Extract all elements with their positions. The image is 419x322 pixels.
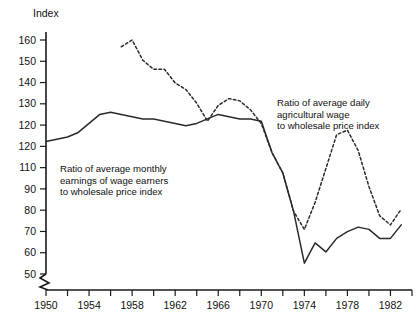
y-axis-title: Index [33, 7, 59, 19]
y-axis-tick-label: 80 [24, 204, 36, 216]
x-axis-line [40, 274, 412, 290]
x-axis-tick-label: 1982 [379, 299, 403, 311]
y-axis-tick-label: 120 [18, 140, 36, 152]
y-axis-tick-label: 130 [18, 97, 36, 109]
x-axis-tick-label: 1958 [120, 299, 144, 311]
x-axis-tick-label: 1970 [250, 299, 274, 311]
chart-container: Index 1601501401301201201109080706050 19… [0, 0, 419, 322]
x-axis-tick-label: 1978 [336, 299, 360, 311]
y-axis-tick-label: 60 [24, 246, 36, 258]
y-axis-tick-label: 150 [18, 55, 36, 67]
y-axis-tick-label: 160 [18, 34, 36, 46]
x-axis-tick-label: 1954 [77, 299, 101, 311]
x-axis-ticks: 195019541958196219661970197419781982 [34, 290, 412, 311]
y-axis-tick-label: 50 [24, 268, 36, 280]
y-axis-tick-label: 140 [18, 76, 36, 88]
x-axis-tick-label: 1962 [163, 299, 187, 311]
x-axis-tick-label: 1966 [207, 299, 231, 311]
y-axis-tick-label: 120 [18, 119, 36, 131]
annotation-line: to wholesale price index [277, 120, 380, 131]
series-line-agricultural-wage [121, 40, 401, 229]
y-axis-tick-label: 70 [24, 225, 36, 237]
y-axis-ticks: 1601501401301201201109080706050 [18, 34, 46, 280]
annotation-line: Ratio of average monthly [60, 163, 167, 174]
annotation-line: agricultural wage [277, 109, 350, 120]
x-axis-tick-label: 1974 [293, 299, 317, 311]
annotation-agricultural-wage: Ratio of average dailyagricultural waget… [277, 97, 380, 131]
annotation-line: earnings of wage earners [60, 175, 168, 186]
annotation-line: to wholesale price index [60, 186, 163, 197]
y-axis-tick-label: 110 [19, 161, 36, 173]
annotation-line: Ratio of average daily [277, 97, 370, 108]
line-chart: Index 1601501401301201201109080706050 19… [0, 0, 419, 322]
x-axis-tick-label: 1950 [34, 299, 58, 311]
annotation-monthly-earnings: Ratio of average monthlyearnings of wage… [60, 163, 168, 197]
y-axis-tick-label: 90 [24, 183, 36, 195]
